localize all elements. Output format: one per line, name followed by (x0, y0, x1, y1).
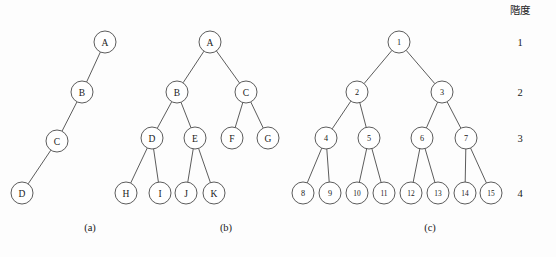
tree-edge (364, 50, 392, 83)
node-label: 4 (324, 134, 328, 143)
captions-layer: (a)(b)(c) (84, 222, 436, 234)
levels-layer: 階度1234 (510, 4, 531, 199)
tree-node[interactable]: C (235, 81, 257, 103)
node-label: G (265, 134, 272, 144)
tree-node[interactable]: 6 (411, 127, 433, 149)
tree-edge (426, 102, 437, 128)
node-label: D (149, 134, 156, 144)
figure-caption: (b) (220, 222, 233, 234)
node-label: A (207, 38, 214, 48)
tree-node[interactable]: K (203, 182, 225, 204)
tree-edge (359, 149, 366, 183)
tree-edge (471, 148, 487, 183)
tree-node[interactable]: B (166, 81, 188, 103)
tree-edge (251, 102, 264, 128)
level-number: 1 (517, 37, 522, 48)
node-label: 6 (420, 134, 424, 143)
tree-node[interactable]: 3 (431, 81, 453, 103)
node-label: 7 (464, 134, 468, 143)
tree-node[interactable]: A (199, 31, 221, 53)
node-label: F (229, 134, 234, 144)
node-label: 10 (353, 189, 361, 198)
level-number: 4 (517, 188, 523, 199)
tree-node[interactable]: E (184, 127, 206, 149)
node-label: J (184, 189, 188, 199)
node-label: 12 (407, 189, 415, 198)
node-label: A (102, 38, 109, 48)
node-label: H (123, 189, 130, 199)
tree-edge (307, 148, 322, 183)
tree-edge (131, 148, 148, 183)
tree-node[interactable]: 11 (373, 182, 395, 204)
tree-edge (360, 103, 366, 128)
tree-node[interactable]: 7 (455, 127, 477, 149)
tree-node[interactable]: 2 (346, 81, 368, 103)
node-label: 3 (440, 88, 444, 97)
node-label: 14 (461, 189, 469, 198)
node-label: 1 (397, 38, 401, 47)
tree-edge (235, 103, 243, 128)
node-label: 8 (301, 189, 305, 198)
tree-edge (447, 102, 461, 129)
tree-edge (181, 102, 191, 128)
tree-edge (183, 51, 204, 83)
node-label: 15 (487, 189, 495, 198)
tree-nodes-tree-b: ABCDEFGHIJK (115, 31, 279, 204)
tree-node[interactable]: 8 (292, 182, 314, 204)
tree-edge (28, 150, 51, 184)
tree-edge (406, 50, 435, 83)
tree-node[interactable]: F (221, 127, 243, 149)
levels-column-header: 階度 (510, 4, 531, 16)
tree-node[interactable]: H (115, 182, 137, 204)
node-label: B (79, 88, 85, 98)
tree-edge (413, 149, 420, 182)
tree-node[interactable]: A (94, 31, 116, 53)
tree-node[interactable]: 5 (358, 127, 380, 149)
tree-edges-tree-b (131, 51, 264, 183)
tree-edge (157, 102, 172, 129)
tree-node[interactable]: 13 (427, 182, 449, 204)
level-number: 3 (517, 133, 522, 144)
tree-node[interactable]: D (11, 182, 33, 204)
node-label: C (243, 88, 249, 98)
figure-caption: (c) (424, 222, 436, 234)
tree-edges-tree-a (28, 52, 100, 184)
node-label: E (192, 134, 198, 144)
tree-node[interactable]: G (257, 127, 279, 149)
node-label: I (158, 189, 161, 199)
tree-node[interactable]: D (141, 127, 163, 149)
tree-edge (154, 149, 159, 182)
tree-node[interactable]: 15 (480, 182, 502, 204)
level-number: 2 (517, 87, 522, 98)
tree-nodes-tree-a: ABCD (11, 31, 116, 204)
tree-edge (372, 149, 381, 183)
node-label: 9 (328, 189, 332, 198)
tree-node[interactable]: 1 (388, 31, 410, 53)
node-label: 11 (380, 189, 387, 198)
node-label: 2 (355, 88, 359, 97)
tree-node[interactable]: 9 (319, 182, 341, 204)
node-label: 5 (367, 134, 371, 143)
nodes-layer: ABCDABCDEFGHIJK123456789101112131415 (11, 31, 502, 204)
tree-node[interactable]: 10 (346, 182, 368, 204)
edges-layer (28, 50, 486, 184)
node-label: C (54, 137, 60, 147)
tree-edges-tree-c (307, 50, 486, 183)
tree-edge (425, 149, 435, 183)
node-label: K (211, 189, 218, 199)
figure-caption: (a) (84, 222, 96, 234)
tree-node[interactable]: 4 (315, 127, 337, 149)
tree-node[interactable]: J (175, 182, 197, 204)
tree-edge (62, 102, 77, 131)
tree-node[interactable]: 12 (400, 182, 422, 204)
node-label: 13 (434, 189, 442, 198)
tree-node[interactable]: B (71, 81, 93, 103)
tree-edge (465, 149, 466, 182)
tree-edge (327, 149, 329, 182)
tree-edge (216, 51, 239, 83)
tree-node[interactable]: C (46, 130, 68, 152)
tree-diagram-canvas: ABCDABCDEFGHIJK123456789101112131415 (a)… (0, 0, 556, 257)
tree-node[interactable]: I (149, 182, 171, 204)
node-label: B (174, 88, 180, 98)
tree-node[interactable]: 14 (454, 182, 476, 204)
